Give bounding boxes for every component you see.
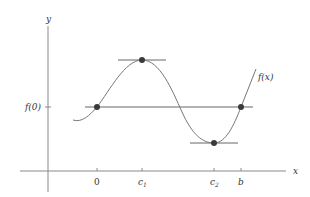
x-axis-label: x — [293, 166, 298, 176]
curve-label: f(x) — [257, 72, 274, 82]
x-label-zero: 0 — [94, 177, 100, 187]
diagram-canvas: y x f(0) f(x) 0 c1 c2 b — [0, 0, 310, 197]
function-curve — [73, 60, 256, 143]
point-min-c2 — [211, 140, 217, 146]
x-label-b: b — [238, 177, 244, 187]
x-label-c1: c1 — [138, 177, 147, 188]
point-b — [238, 104, 244, 110]
point-zero — [94, 104, 100, 110]
y-axis-label: y — [45, 14, 52, 24]
c2-subscript: 2 — [214, 181, 219, 188]
x-label-c2: c2 — [210, 177, 219, 188]
c1-subscript: 1 — [143, 181, 147, 188]
point-max-c1 — [139, 57, 145, 63]
f0-tick-label: f(0) — [24, 102, 42, 112]
